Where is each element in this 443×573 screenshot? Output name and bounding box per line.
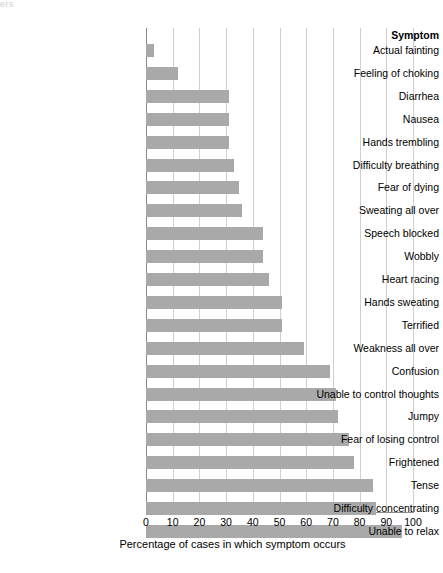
bar[interactable]	[146, 113, 229, 126]
category-label: Hands sweating	[297, 297, 443, 308]
category-label: Difficulty breathing	[297, 160, 443, 171]
category-label: Confusion	[297, 366, 443, 377]
bar[interactable]	[146, 273, 269, 286]
bar[interactable]	[146, 204, 242, 217]
category-label: Diarrhea	[297, 91, 443, 102]
x-tick-40: 40	[238, 517, 268, 528]
x-tick-100: 100	[398, 517, 428, 528]
category-label: Terrified	[297, 320, 443, 331]
x-tick-10: 10	[158, 517, 188, 528]
bar[interactable]	[146, 136, 229, 149]
category-label: Unable to control thoughts	[297, 389, 443, 400]
x-tick-70: 70	[318, 517, 348, 528]
category-label: Fear of losing control	[297, 434, 443, 445]
category-label: Jumpy	[297, 411, 443, 422]
category-label: Feeling of choking	[297, 68, 443, 79]
category-label: Frightened	[297, 457, 443, 468]
x-tick-0: 0	[131, 517, 161, 528]
category-label: Fear of dying	[297, 182, 443, 193]
bar[interactable]	[146, 90, 229, 103]
bar[interactable]	[146, 181, 239, 194]
bar[interactable]	[146, 227, 263, 240]
category-label: Heart racing	[297, 274, 443, 285]
bar[interactable]	[146, 342, 304, 355]
bar[interactable]	[146, 296, 282, 309]
bar[interactable]	[146, 319, 282, 332]
bar[interactable]	[146, 159, 234, 172]
x-axis-title: Percentage of cases in which symptom occ…	[0, 538, 443, 550]
category-label: Speech blocked	[297, 228, 443, 239]
bar[interactable]	[146, 250, 263, 263]
category-label: Wobbly	[297, 251, 443, 262]
symptom-bar-chart: Symptom Actual faintingFeeling of chokin…	[0, 0, 443, 573]
x-tick-50: 50	[265, 517, 295, 528]
category-label: Difficulty concentrating	[297, 503, 443, 514]
bar[interactable]	[146, 67, 178, 80]
x-tick-80: 80	[345, 517, 375, 528]
x-tick-20: 20	[184, 517, 214, 528]
category-label: Weakness all over	[297, 343, 443, 354]
x-tick-30: 30	[211, 517, 241, 528]
category-label: Tense	[297, 480, 443, 491]
category-label: Sweating all over	[297, 205, 443, 216]
x-tick-90: 90	[371, 517, 401, 528]
x-axis-title-text: Percentage of cases in which symptom occ…	[97, 538, 345, 550]
bar[interactable]	[146, 44, 154, 57]
category-label: Actual fainting	[297, 45, 443, 56]
x-tick-60: 60	[291, 517, 321, 528]
category-label: Hands trembling	[297, 137, 443, 148]
category-label: Nausea	[297, 114, 443, 125]
